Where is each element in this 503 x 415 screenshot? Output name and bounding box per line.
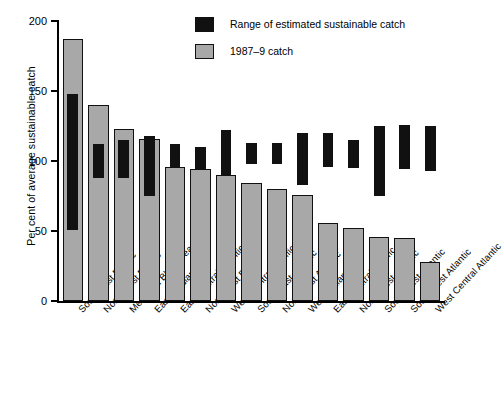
y-axis-title: Per cent of average sustainable catch — [25, 41, 37, 271]
bar-catch — [394, 238, 414, 301]
bar-sustainable-range — [144, 136, 155, 196]
bar-sustainable-range — [221, 130, 232, 175]
bar-catch — [420, 262, 440, 301]
bar-sustainable-range — [170, 144, 181, 166]
bar-sustainable-range — [195, 147, 206, 169]
legend-label-catch: 1987–9 catch — [230, 45, 293, 57]
bar-catch — [241, 183, 261, 301]
y-axis-tick — [51, 230, 57, 232]
legend-swatch-range-icon — [195, 17, 214, 32]
bar-catch — [267, 189, 287, 301]
y-axis-tick — [51, 20, 57, 22]
bar-catch — [165, 167, 185, 301]
bar-catch — [318, 223, 338, 301]
bar-sustainable-range — [374, 126, 385, 196]
bar-sustainable-range — [118, 140, 129, 178]
bar-sustainable-range — [93, 144, 104, 178]
bar-catch — [369, 237, 389, 301]
bar-sustainable-range — [425, 126, 436, 171]
y-axis-tick — [51, 90, 57, 92]
bar-sustainable-range — [297, 133, 308, 185]
bar-catch — [292, 195, 312, 301]
bar-sustainable-range — [246, 143, 257, 164]
bar-catch — [343, 228, 363, 301]
bar-sustainable-range — [272, 143, 283, 164]
bar-catch — [190, 169, 210, 301]
legend-label-range: Range of estimated sustainable catch — [230, 18, 405, 30]
bar-catch — [216, 175, 236, 301]
y-axis-tick-label: 200 — [13, 16, 47, 27]
legend-swatch-catch-icon — [195, 44, 214, 59]
bar-sustainable-range — [348, 140, 359, 168]
bar-sustainable-range — [323, 133, 334, 167]
y-axis-tick-label: 0 — [13, 296, 47, 307]
y-axis-tick — [51, 160, 57, 162]
y-axis-tick — [51, 300, 57, 302]
bar-sustainable-range — [67, 94, 78, 230]
bar-sustainable-range — [399, 125, 410, 170]
legend-item-range: Range of estimated sustainable catch — [195, 14, 405, 34]
bar-catch — [88, 105, 108, 301]
chart-legend: Range of estimated sustainable catch 198… — [195, 14, 405, 68]
legend-item-catch: 1987–9 catch — [195, 41, 405, 61]
